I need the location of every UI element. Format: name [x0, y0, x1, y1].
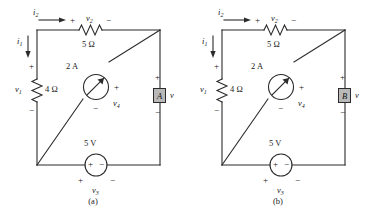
voltage-source-inner-plus: +: [273, 160, 278, 169]
voltage-source-minus-sign: −: [110, 176, 115, 185]
current-i1-label: i1: [202, 37, 207, 47]
voltage-source-value-label: 5 V: [269, 139, 281, 148]
voltage-source-inner-minus: −: [284, 160, 289, 169]
current-i1-label: i1: [17, 37, 22, 47]
current-source-plus-sign: +: [114, 83, 119, 92]
resistor-top-voltage-label: v2: [86, 14, 93, 24]
current-i2-arrowhead: [244, 17, 251, 22]
resistor-top-minus-sign: −: [106, 16, 111, 25]
panel-a-caption: (a): [0, 196, 186, 206]
resistor-left-minus-sign: −: [214, 106, 219, 115]
current-source-minus-sign: −: [93, 104, 98, 113]
meter-box-a[interactable]: A: [153, 88, 166, 103]
current-source-value-label: 2 A: [66, 62, 78, 71]
resistor-top-value-label: 5 Ω: [82, 40, 95, 49]
resistor-left-value-label: 4 Ω: [230, 85, 243, 94]
wire-diagonal-lower: [222, 99, 268, 165]
resistor-left-value-label: 4 Ω: [45, 85, 58, 94]
current-source-symbol: [269, 75, 294, 100]
wire-diagonal-upper: [294, 30, 345, 62]
voltage-source-label: v3: [277, 186, 284, 196]
resistor-left-symbol: [217, 79, 227, 102]
meter-minus-sign: −: [340, 108, 345, 117]
circuit-panel-a: A i2 i1 + v2 − 5 Ω + v1 − 4 Ω 2 A + v4 −…: [0, 0, 186, 218]
resistor-left-symbol: [32, 79, 42, 102]
current-source-plus-sign: +: [299, 83, 304, 92]
meter-box-b[interactable]: B: [338, 88, 351, 103]
current-source-voltage-label: v4: [298, 99, 305, 109]
current-source-symbol: [84, 75, 109, 100]
current-i1-arrowhead: [210, 51, 215, 58]
resistor-left-plus-sign: +: [214, 62, 219, 71]
meter-minus-sign: −: [155, 108, 160, 117]
voltage-source-plus-sign: +: [263, 176, 268, 185]
wire-diagonal-upper: [109, 30, 160, 62]
current-source-value-label: 2 A: [251, 62, 263, 71]
circuit-panel-b: B i2 i1 + v2 − 5 Ω + v1 − 4 Ω 2 A + v4 −…: [185, 0, 371, 218]
resistor-top-value-label: 5 Ω: [267, 40, 280, 49]
voltage-source-value-label: 5 V: [84, 139, 96, 148]
resistor-left-voltage-label: v1: [15, 85, 22, 95]
current-i2-label: i2: [218, 8, 223, 18]
resistor-top-plus-sign: +: [70, 16, 75, 25]
meter-plus-sign: +: [340, 73, 345, 82]
meter-voltage-label: v: [355, 91, 359, 100]
voltage-source-plus-sign: +: [78, 176, 83, 185]
resistor-left-minus-sign: −: [29, 106, 34, 115]
voltage-source-label: v3: [92, 186, 99, 196]
panel-b-caption: (b): [185, 196, 371, 206]
current-i2-arrowhead: [59, 17, 66, 22]
wire-diagonal-lower: [37, 99, 83, 165]
current-i2-label: i2: [33, 8, 38, 18]
resistor-top-symbol: [264, 25, 287, 35]
resistor-left-plus-sign: +: [29, 62, 34, 71]
voltage-source-inner-minus: −: [99, 160, 104, 169]
resistor-top-plus-sign: +: [255, 16, 260, 25]
current-i1-arrowhead: [25, 51, 30, 58]
current-source-voltage-label: v4: [113, 99, 120, 109]
resistor-left-voltage-label: v1: [200, 85, 207, 95]
voltage-source-minus-sign: −: [295, 176, 300, 185]
current-source-minus-sign: −: [278, 104, 283, 113]
meter-voltage-label: v: [170, 91, 174, 100]
meter-plus-sign: +: [155, 73, 160, 82]
resistor-top-voltage-label: v2: [271, 14, 278, 24]
resistor-top-symbol: [79, 25, 102, 35]
voltage-source-inner-plus: +: [88, 160, 93, 169]
resistor-top-minus-sign: −: [291, 16, 296, 25]
